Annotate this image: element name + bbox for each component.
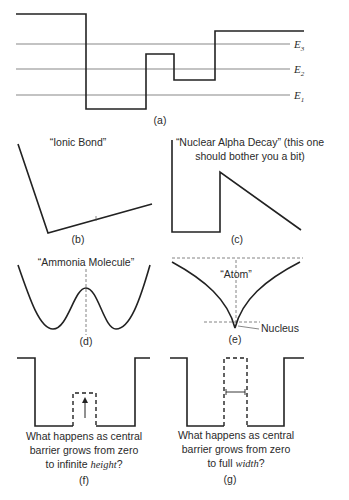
question-g-line1: What happens as central [178, 429, 294, 441]
panel-c: “Nuclear Alpha Decay” (this one should b… [172, 136, 324, 245]
panel-f: What happens as central barrier grows fr… [17, 358, 150, 486]
question-g-line2: barrier grows from zero [182, 443, 291, 455]
title-ionic-bond: “Ionic Bond” [50, 136, 107, 148]
left-well [170, 358, 224, 426]
right-well [96, 358, 150, 426]
left-well [17, 358, 73, 426]
caption-e: (e) [229, 333, 242, 345]
potential-diagrams: E3 E2 E1 (a) “Ionic Bond” (b) “Nuclear A… [0, 0, 349, 500]
ionic-bond-potential [18, 144, 152, 233]
panel-d: “Ammonia Molecule” (d) [18, 256, 150, 347]
question-f-line2: barrier grows from zero [30, 444, 139, 456]
panel-a: E3 E2 E1 (a) [16, 14, 305, 126]
title-atom: “Atom” [220, 268, 252, 280]
label-e1: E1 [293, 89, 304, 104]
caption-d: (d) [80, 335, 93, 347]
panel-g: What happens as central barrier grows fr… [170, 358, 304, 485]
caption-f: (f) [79, 474, 89, 486]
question-g-line3: to full width? [207, 457, 264, 469]
question-f-line1: What happens as central [26, 430, 142, 442]
caption-b: (b) [72, 233, 85, 245]
label-e2: E2 [293, 63, 305, 78]
right-well [247, 358, 304, 426]
caption-g: (g) [224, 473, 237, 485]
title-alpha-decay-1: “Nuclear Alpha Decay” (this one [176, 136, 324, 148]
caption-a: (a) [154, 114, 167, 126]
label-e3: E3 [293, 38, 305, 53]
title-alpha-decay-2: should bother you a bit) [195, 150, 305, 162]
nucleus-pointer [238, 326, 259, 329]
panel-e: “Atom” Nucleus (e) [172, 258, 303, 345]
title-ammonia: “Ammonia Molecule” [38, 256, 135, 268]
label-nucleus: Nucleus [261, 322, 299, 334]
double-well-potential [18, 265, 150, 329]
panel-b: “Ionic Bond” (b) [18, 136, 152, 245]
caption-c: (c) [231, 233, 243, 245]
question-f-line3: to infinite height? [45, 458, 122, 470]
arrowhead-icon [82, 397, 88, 403]
